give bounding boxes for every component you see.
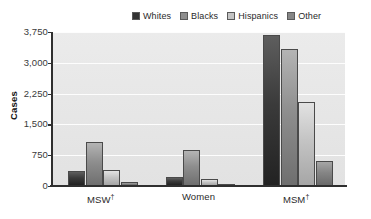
legend-item-hispanics: Hispanics bbox=[227, 11, 278, 21]
chart-legend: Whites Blacks Hispanics Other bbox=[132, 9, 321, 23]
chart-figure: Whites Blacks Hispanics Other 07501,5002… bbox=[0, 0, 371, 219]
bar-whites-msw bbox=[68, 171, 85, 186]
bar-other-msm bbox=[316, 161, 333, 186]
y-tick-label: 3,000 bbox=[2, 58, 48, 68]
x-tick-label-women: Women bbox=[150, 191, 248, 202]
bar-blacks-msm bbox=[281, 49, 298, 186]
legend-swatch-whites bbox=[132, 12, 140, 20]
gridline bbox=[52, 94, 345, 95]
gridline bbox=[52, 32, 345, 33]
dagger-marker: † bbox=[305, 193, 309, 200]
y-tick-mark bbox=[48, 155, 52, 156]
legend-label-whites: Whites bbox=[143, 11, 171, 21]
y-axis-line bbox=[51, 32, 53, 186]
y-tick-label: 3,750 bbox=[2, 27, 48, 37]
x-axis-line bbox=[50, 185, 347, 187]
gridline bbox=[52, 63, 345, 64]
x-tick-label-msm: MSM† bbox=[247, 191, 345, 205]
legend-label-other: Other bbox=[298, 11, 321, 21]
plot-area bbox=[52, 32, 345, 186]
y-tick-mark bbox=[48, 32, 52, 33]
y-tick-mark bbox=[48, 94, 52, 95]
x-tick-label-msw: MSW† bbox=[52, 191, 150, 205]
legend-swatch-hispanics bbox=[227, 12, 235, 20]
y-tick-mark bbox=[48, 63, 52, 64]
legend-label-blacks: Blacks bbox=[191, 11, 218, 21]
y-axis-title: Cases bbox=[8, 76, 19, 136]
legend-swatch-blacks bbox=[180, 12, 188, 20]
bar-blacks-women bbox=[183, 150, 200, 186]
dagger-marker: † bbox=[111, 193, 115, 200]
bar-blacks-msw bbox=[86, 142, 103, 186]
y-tick-mark bbox=[48, 186, 52, 187]
y-tick-label: 750 bbox=[2, 150, 48, 160]
bar-whites-msm bbox=[263, 35, 280, 186]
legend-item-blacks: Blacks bbox=[180, 11, 218, 21]
legend-item-whites: Whites bbox=[132, 11, 171, 21]
legend-swatch-other bbox=[287, 12, 295, 20]
legend-item-other: Other bbox=[287, 11, 321, 21]
legend-label-hispanics: Hispanics bbox=[238, 11, 278, 21]
y-tick-mark bbox=[48, 124, 52, 125]
bar-hispanics-msw bbox=[103, 170, 120, 186]
y-tick-label: 0 bbox=[2, 181, 48, 191]
bar-hispanics-msm bbox=[298, 102, 315, 186]
